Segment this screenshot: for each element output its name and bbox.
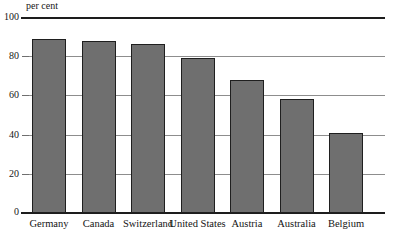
x-axis-category-labels: GermanyCanadaSwitzerlandUnited StatesAus… <box>29 216 385 236</box>
bar <box>181 58 215 213</box>
y-tick-label-0: 0 <box>14 205 19 218</box>
y-tick-mark-20 <box>22 174 29 175</box>
bars-group <box>29 17 385 213</box>
x-axis-label: Belgium <box>301 216 391 231</box>
bar <box>329 133 363 213</box>
y-tick-mark-100 <box>21 17 29 19</box>
y-tick-label-80: 80 <box>9 49 19 62</box>
bar-chart: per cent 020406080100 GermanyCanadaSwitz… <box>0 0 395 244</box>
bar <box>280 99 314 213</box>
y-tick-label-60: 60 <box>9 88 19 101</box>
bar <box>230 80 264 213</box>
y-tick-label-20: 20 <box>9 167 19 180</box>
bar <box>32 39 66 213</box>
plot-area: 020406080100 <box>29 17 385 213</box>
bar <box>82 41 116 213</box>
y-tick-label-40: 40 <box>9 128 19 141</box>
bar <box>131 44 165 213</box>
y-axis-unit-label: per cent <box>26 0 58 12</box>
y-tick-mark-40 <box>22 135 29 136</box>
y-tick-label-100: 100 <box>4 10 19 23</box>
y-tick-mark-60 <box>22 95 29 96</box>
y-tick-mark-80 <box>22 56 29 57</box>
y-tick-mark-0 <box>21 212 29 214</box>
